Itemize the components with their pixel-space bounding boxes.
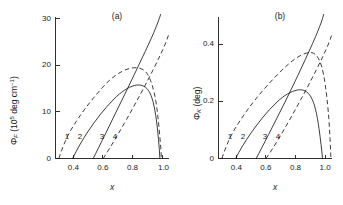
panel-a-yaxis-units-close: ) — [9, 76, 19, 79]
plot-panel-a: 0 10 20 30 0.4 0.6 0.8 1.0 1 2 3 4 (a) x… — [0, 0, 171, 205]
panel-b-yaxis-units: (deg) — [192, 87, 202, 107]
panel-a-yaxis-subscript: F — [13, 134, 19, 138]
panel-a-tag: (a) — [112, 11, 122, 21]
panel-b-curve-key-4: 4 — [276, 132, 280, 141]
figure-root: 0 10 20 30 0.4 0.6 0.8 1.0 1 2 3 4 (a) x… — [0, 0, 343, 205]
panel-b-ytick-0: 0 — [181, 155, 214, 163]
panel-a-curve-key-4: 4 — [113, 132, 117, 141]
panel-a-xaxis-title: x — [110, 182, 114, 192]
panel-b-tag: (b) — [275, 11, 285, 21]
panel-a-yaxis-units-open: (10 — [9, 120, 19, 132]
panel-b-curve-key-3: 3 — [263, 132, 267, 141]
panel-a-ytick-0: 0 — [18, 155, 51, 163]
panel-b-ytick-04: 0.4 — [181, 40, 214, 48]
panel-a-yaxis-units-tail: deg cm — [9, 86, 19, 116]
panel-b-xtick-10: 1.0 — [320, 164, 331, 172]
panel-a-curve-key-3: 3 — [100, 132, 104, 141]
panel-a-xtick-06: 0.6 — [97, 164, 108, 172]
panel-b-xtick-08: 0.8 — [290, 164, 301, 172]
panel-a-curve-key-1: 1 — [65, 132, 69, 141]
curve-1-a — [59, 68, 161, 159]
panel-a-ytick-20: 20 — [18, 61, 51, 69]
panel-a-yaxis-title: ΦF (105 deg cm−1) — [9, 76, 19, 145]
panel-a-ytick-30: 30 — [18, 15, 51, 23]
panel-a-yaxis-exponent: 5 — [9, 116, 15, 119]
panel-b-curve-key-2: 2 — [241, 132, 245, 141]
panel-b-yaxis-subscript: K — [196, 109, 202, 113]
curve-2-a — [73, 85, 160, 159]
panel-a-curve-key-2: 2 — [78, 132, 82, 141]
panel-a-yaxis-exponent-2: −1 — [9, 79, 15, 86]
panel-a-xtick-10: 1.0 — [158, 164, 169, 172]
curve-2-b — [236, 90, 323, 159]
panel-a-xtick-08: 0.8 — [127, 164, 138, 172]
panel-a-xtick-04: 0.4 — [68, 164, 79, 172]
panel-b-ticks — [219, 44, 326, 158]
panel-a-ticks — [56, 19, 163, 159]
plot-panel-b: 0 0.2 0.4 0.4 0.6 0.8 1.0 1 2 3 4 (b) x … — [170, 0, 341, 205]
panel-b-xtick-04: 0.4 — [231, 164, 242, 172]
panel-a-yaxis-symbol: Φ — [9, 138, 19, 145]
panel-b-yaxis-symbol: Φ — [192, 113, 202, 120]
panel-b-curve-key-1: 1 — [228, 132, 232, 141]
panel-b-xtick-06: 0.6 — [260, 164, 271, 172]
panel-b-xaxis-title: x — [273, 182, 277, 192]
panel-b-yaxis-title: ΦK (deg) — [192, 87, 202, 120]
panel-a-ytick-10: 10 — [18, 108, 51, 116]
panel-a-canvas — [0, 0, 171, 205]
